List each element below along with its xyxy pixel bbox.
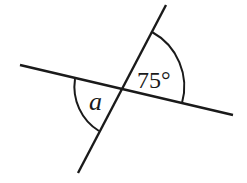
- angle-diagram: 75° a: [0, 0, 247, 183]
- angle-label-a: a: [89, 87, 102, 116]
- transversal-line-horizontal: [20, 65, 233, 115]
- angle-label-75: 75°: [137, 67, 171, 93]
